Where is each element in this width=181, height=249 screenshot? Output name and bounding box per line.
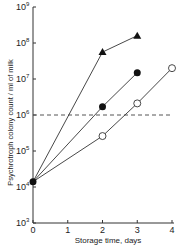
- y-tick-label: 104: [16, 181, 30, 192]
- x-tick-label: 3: [135, 225, 140, 235]
- y-tick-label: 109: [16, 1, 30, 12]
- y-axis-label: Psychrotroph colony count / ml of milk: [6, 50, 15, 195]
- y-tick-label: 103: [16, 217, 30, 228]
- y-tick-label: 108: [16, 37, 30, 48]
- series-line: [33, 68, 172, 182]
- y-tick-label: 105: [16, 145, 30, 156]
- triangle-marker: [99, 48, 107, 55]
- x-tick-label: 1: [65, 225, 70, 235]
- series-line: [33, 73, 137, 182]
- open-circle-marker: [99, 133, 106, 140]
- chart-plot: 10310410510610710810901234: [0, 0, 181, 249]
- triangle-marker: [133, 32, 141, 39]
- y-tick-label: 107: [16, 73, 30, 84]
- filled-circle-marker: [134, 69, 141, 76]
- open-circle-marker: [134, 100, 141, 107]
- open-circle-marker: [169, 65, 176, 72]
- y-tick-label: 106: [16, 109, 30, 120]
- x-tick-label: 0: [31, 225, 36, 235]
- x-tick-label: 2: [100, 225, 105, 235]
- start-marker: [30, 178, 37, 185]
- filled-circle-marker: [99, 103, 106, 110]
- x-tick-label: 4: [170, 225, 175, 235]
- series-line: [33, 36, 137, 182]
- x-axis-label: Storage time, days: [38, 236, 178, 245]
